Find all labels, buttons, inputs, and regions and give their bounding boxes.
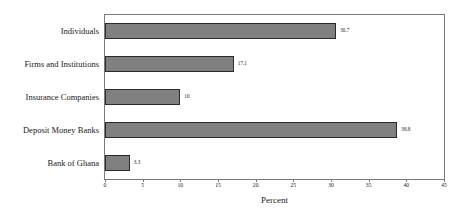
category-label: Bank of Ghana bbox=[0, 158, 105, 167]
bar bbox=[105, 56, 234, 72]
category-label: Firms and Institutions bbox=[0, 60, 105, 69]
bar bbox=[105, 23, 336, 39]
bar-value-label: 38.8 bbox=[397, 127, 410, 132]
bar-value-label: 10 bbox=[180, 94, 189, 99]
x-axis-tick-label: 30 bbox=[328, 183, 334, 189]
x-axis-tick-label: 20 bbox=[253, 183, 259, 189]
x-axis-tick-label: 10 bbox=[178, 183, 184, 189]
x-axis-title: Percent bbox=[104, 196, 445, 205]
x-axis-tick-label: 40 bbox=[404, 183, 410, 189]
bar bbox=[105, 155, 130, 171]
bar bbox=[105, 122, 397, 138]
x-axis-tick-label: 35 bbox=[366, 183, 372, 189]
x-axis-tick-label: 0 bbox=[104, 183, 107, 189]
x-axis-tick-label: 15 bbox=[215, 183, 221, 189]
plot-area: Individuals30.7Firms and Institutions17.… bbox=[104, 14, 445, 180]
category-label: Individuals bbox=[0, 27, 105, 36]
bar-value-label: 30.7 bbox=[336, 29, 349, 34]
bar-chart: Individuals30.7Firms and Institutions17.… bbox=[0, 0, 462, 215]
bar-value-label: 17.1 bbox=[234, 62, 247, 67]
category-label: Insurance Companies bbox=[0, 93, 105, 102]
category-label: Deposit Money Banks bbox=[0, 126, 105, 135]
bar-value-label: 3.3 bbox=[130, 160, 140, 165]
x-axis-tick-label: 25 bbox=[291, 183, 297, 189]
x-axis-tick-label: 5 bbox=[141, 183, 144, 189]
x-axis-tick-label: 45 bbox=[441, 183, 447, 189]
bar bbox=[105, 89, 180, 105]
